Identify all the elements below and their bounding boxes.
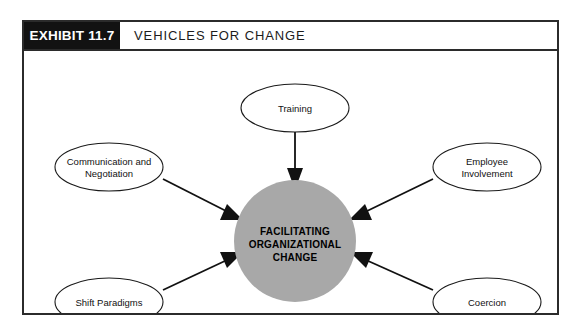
hub-label-line3: CHANGE [273, 252, 318, 263]
node-training: Training [241, 84, 349, 132]
node-coercion-label: Coercion [468, 297, 506, 308]
hub-label-line2: ORGANIZATIONAL [249, 239, 342, 250]
connector-communication-to-hub [163, 179, 243, 220]
connector-shift-paradigms-to-hub [163, 252, 243, 290]
connector-employee-involvement-to-hub [349, 179, 433, 220]
node-employee-involvement-label-line2: Involvement [461, 168, 513, 179]
node-training-label: Training [278, 103, 312, 114]
exhibit-header: EXHIBIT 11.7 VEHICLES FOR CHANGE [24, 22, 557, 51]
node-communication-and-negotiation: Communication and Negotiation [55, 143, 163, 191]
node-employee-involvement-label-line1: Employee [466, 156, 508, 167]
node-coercion: Coercion [433, 278, 541, 313]
exhibit-title: VEHICLES FOR CHANGE [120, 22, 557, 49]
node-shift-paradigms: Shift Paradigms [55, 278, 163, 313]
node-communication-label-line1: Communication and [67, 156, 152, 167]
node-communication-label-line2: Negotiation [85, 168, 133, 179]
node-shift-paradigms-label: Shift Paradigms [75, 297, 142, 308]
hub-label-line1: FACILITATING [260, 226, 330, 237]
exhibit-number-badge: EXHIBIT 11.7 [24, 22, 120, 49]
node-employee-involvement: Employee Involvement [433, 143, 541, 191]
diagram-area: FACILITATING ORGANIZATIONAL CHANGE Train… [24, 51, 557, 313]
connector-coercion-to-hub [350, 252, 433, 290]
exhibit-frame: EXHIBIT 11.7 VEHICLES FOR CHANGE [22, 20, 559, 315]
vehicles-for-change-diagram: FACILITATING ORGANIZATIONAL CHANGE Train… [24, 51, 557, 313]
hub-facilitating-organizational-change: FACILITATING ORGANIZATIONAL CHANGE [234, 180, 356, 302]
